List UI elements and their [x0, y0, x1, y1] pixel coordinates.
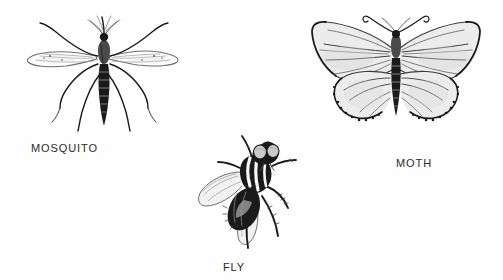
moth-caption: MOTH	[396, 157, 432, 169]
mosquito-illustration	[18, 12, 196, 140]
mosquito-caption: MOSQUITO	[31, 142, 98, 154]
fly-illustration	[192, 132, 304, 254]
moth-illustration	[296, 8, 496, 150]
illustration-plate: MOSQUITO	[0, 0, 503, 280]
fly-caption: FLY	[223, 261, 245, 273]
